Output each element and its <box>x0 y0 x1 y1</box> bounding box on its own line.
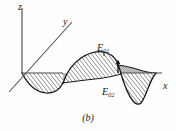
annotation-e01-sub: 01 <box>103 47 109 54</box>
axis-label-z: z <box>18 2 22 12</box>
axis-label-y: y <box>63 17 67 27</box>
wave-e01-hatched <box>22 52 156 105</box>
annotation-e01: E01 <box>97 43 110 53</box>
axis-label-x: x <box>163 81 167 91</box>
annotation-e02: E02 <box>102 87 115 97</box>
annotation-e02-sub: 02 <box>108 91 114 98</box>
figure-caption: (b) <box>0 112 176 123</box>
physics-figure: z y x E01 E02 (b) <box>0 0 176 131</box>
